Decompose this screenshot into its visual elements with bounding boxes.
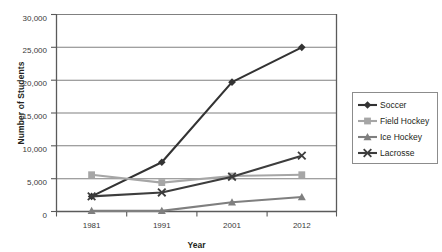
legend-label: Soccer (380, 100, 407, 110)
y-tick-label: 5,000 (27, 178, 48, 187)
y-tick-label: 10,000 (23, 145, 48, 154)
x-tick-label: 1991 (153, 221, 171, 230)
data-point (88, 171, 95, 178)
y-tick-label: 15,000 (23, 112, 48, 121)
x-axis-tick-labels: 1981 1991 2001 2012 (83, 221, 312, 230)
x-tick-label: 1981 (83, 221, 101, 230)
series-soccer (88, 44, 306, 201)
y-axis-tick-labels: 0 5,000 10,000 15,000 20,000 25,000 30,0… (23, 14, 48, 220)
x-tick-label: 2001 (223, 221, 241, 230)
data-point (298, 171, 305, 178)
legend: SoccerField HockeyIce HockeyLacrosse (353, 93, 438, 164)
chart-canvas: 0 5,000 10,000 15,000 20,000 25,000 30,0… (0, 0, 442, 252)
legend-label: Lacrosse (380, 148, 415, 158)
x-axis-ticks (57, 212, 337, 217)
legend-swatch-marker (364, 118, 371, 125)
legend-label: Field Hockey (380, 116, 430, 126)
y-tick-label: 20,000 (23, 79, 48, 88)
x-tick-label: 2012 (293, 221, 311, 230)
series-line (92, 197, 302, 211)
data-point (158, 179, 165, 186)
y-tick-label: 30,000 (23, 14, 48, 23)
series-line (92, 47, 302, 196)
legend-label: Ice Hockey (380, 132, 423, 142)
data-point (298, 44, 306, 52)
y-tick-label: 25,000 (23, 46, 48, 55)
y-axis-ticks (51, 15, 56, 212)
line-chart: Number of Students Year (0, 0, 442, 252)
y-tick-label: 0 (43, 211, 48, 220)
grid-lines (56, 15, 337, 179)
data-series-layer (88, 44, 306, 215)
